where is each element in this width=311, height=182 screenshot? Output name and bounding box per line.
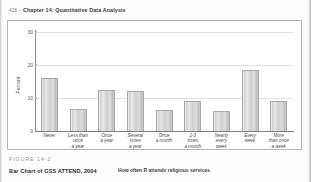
figure-number: FIGURE 14-2 [9,156,51,162]
bar [242,70,259,131]
y-axis-tick-mark [35,65,37,66]
x-axis-category-label: Morethan oncea week [264,133,293,149]
bar [41,78,58,131]
bar [127,91,144,131]
figure-caption: Bar Chart of GSS ATTEND, 2004 [9,168,97,174]
bar-slot [207,32,236,131]
y-axis-tick-mark [35,32,37,33]
bar-slot [236,32,265,131]
x-axis-category-label: Less thanoncea year [64,133,93,149]
x-axis-category-labels: NeverLess thanoncea yearOncea yearSevera… [35,133,293,149]
x-axis-line [35,131,294,132]
bar-slot [64,32,93,131]
y-axis-tick-mark [35,98,37,99]
x-axis-category-label: Nearlyeveryweek [207,133,236,149]
y-axis-tick-labels: 0102030 [21,32,33,131]
x-axis-category-label: 2-3timesa month [178,133,207,149]
bar [98,90,115,131]
header-bullet-icon: • [19,8,21,13]
bar [270,101,287,131]
y-axis-tick-label: 10 [27,95,33,101]
y-axis-tick-label: 20 [27,62,33,68]
page-folio-number: 428 [9,8,17,13]
x-axis-category-label: Oncea month [150,133,179,149]
bar [70,109,87,131]
bar-slot [178,32,207,131]
running-header: 428 • Chapter 14: Quantitative Data Anal… [9,7,126,13]
textbook-page: 428 • Chapter 14: Quantitative Data Anal… [0,0,311,182]
y-axis-tick-label: 0 [30,128,33,134]
bar [184,101,201,131]
bar-slot [92,32,121,131]
x-axis-category-label: Everyweek [236,133,265,149]
y-axis-tick-label: 30 [27,29,33,35]
bar [156,110,173,131]
bar-slot [35,32,64,131]
chapter-title: Chapter 14: Quantitative Data Analysis [23,7,126,13]
bar [213,111,230,131]
x-axis-category-label: Severaltimesa year [121,133,150,149]
y-axis-tick-mark [35,131,37,132]
bar-series [35,32,293,131]
bar-slot [121,32,150,131]
bar-slot [264,32,293,131]
x-axis-category-label: Oncea year [92,133,121,149]
figure-frame: Percent 0102030 NeverLess thanoncea year… [7,20,302,150]
x-axis-category-label: Never [35,133,64,149]
bar-slot [150,32,179,131]
